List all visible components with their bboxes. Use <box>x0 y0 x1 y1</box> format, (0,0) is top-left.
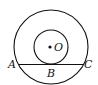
label-c: C <box>84 58 93 71</box>
center-point <box>48 45 51 48</box>
geometry-diagram: O A B C <box>0 0 98 85</box>
label-a: A <box>7 58 16 71</box>
label-o: O <box>54 41 63 54</box>
label-b: B <box>46 67 55 80</box>
